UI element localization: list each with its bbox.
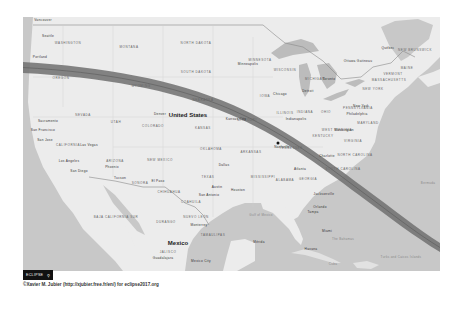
label-arkansas: ARKANSAS	[240, 150, 261, 154]
label-dallas: Dallas	[219, 163, 230, 167]
label-virginia: VIRGINIA	[344, 139, 362, 143]
label-mississippi: MISSISSIPPI	[251, 175, 275, 179]
label-quebec-city: Québec	[382, 46, 395, 50]
label-durango: DURANGO	[156, 220, 176, 224]
label-san-antonio: San Antonio	[199, 193, 220, 197]
label-tucson: Tucson	[114, 176, 126, 180]
label-sonora: SONORA	[132, 181, 149, 185]
label-mexico: Mexico	[168, 240, 188, 246]
label-san-diego: San Diego	[70, 169, 88, 173]
search-icon: ⚲	[47, 273, 50, 278]
label-massachusetts: MASSACHUSETTS	[372, 78, 406, 82]
label-new-york: NEW YORK	[362, 87, 383, 91]
label-vermont: VERMONT	[383, 72, 402, 76]
label-colorado: COLORADO	[142, 124, 164, 128]
label-new-brunswick: NEW BRUNSWICK	[398, 48, 432, 52]
label-jacksonville: Jacksonville	[314, 192, 335, 196]
label-san-jose: San Jose	[37, 138, 53, 142]
label-ottawa: Ottawa Gatineau	[344, 59, 372, 63]
label-austin: Austin	[212, 185, 223, 189]
label-bahamas: The Bahamas	[332, 237, 354, 241]
label-washington: WASHINGTON	[55, 41, 82, 45]
label-new-york-city: New York	[353, 104, 369, 108]
label-phoenix: Phoenix	[105, 165, 119, 169]
label-tamaulipas: TAMAULIPAS	[201, 233, 226, 237]
label-seattle: Seattle	[42, 34, 54, 38]
label-wyoming: WYOMING	[131, 84, 150, 88]
label-mexico-city: Mexico City	[191, 259, 211, 263]
label-jalisco: JALISCO	[160, 250, 177, 254]
eclipse-map[interactable]: United States Mexico WASHINGTON OREGON M…	[23, 17, 440, 271]
label-oregon: OREGON	[53, 76, 70, 80]
nashville-marker[interactable]	[277, 142, 280, 145]
label-atlanta: Atlanta	[294, 167, 306, 171]
label-montana: MONTANA	[120, 45, 139, 49]
label-alabama: ALABAMA	[276, 178, 294, 182]
label-maine: MAINE	[401, 66, 414, 70]
label-las-vegas: Las Vegas	[80, 143, 98, 147]
label-turks-caicos: Turks and Caicos Islands	[381, 255, 422, 259]
label-ohio: OHIO	[321, 110, 331, 114]
label-nashville: Nashville	[274, 145, 290, 149]
label-houston: Houston	[231, 188, 245, 192]
label-wisconsin: WISCONSIN	[274, 68, 297, 72]
label-merida: Mérida	[253, 240, 265, 244]
map-credit: ©Xavier M. Jubier (http://xjubier.free.f…	[23, 282, 159, 287]
label-vancouver: Vancouver	[34, 18, 52, 22]
badge-label: ECLIPSE	[26, 273, 43, 277]
label-south-carolina: SOUTH CAROLINA	[325, 167, 360, 171]
label-arizona: ARIZONA	[106, 159, 124, 163]
label-kansas: KANSAS	[195, 126, 211, 130]
label-illinois: ILLINOIS	[276, 111, 293, 115]
label-bermuda: Bermuda	[421, 181, 435, 185]
label-san-francisco: San Francisco	[31, 128, 55, 132]
label-south-dakota: SOUTH DAKOTA	[181, 70, 212, 74]
label-texas: TEXAS	[202, 175, 215, 179]
label-portland: Portland	[33, 55, 47, 59]
label-gulf-of-mexico: Gulf of Mexico	[249, 213, 272, 217]
label-denver: Denver	[154, 112, 166, 116]
label-nebraska: NEBRASKA	[192, 98, 213, 102]
label-sacramento: Sacramento	[38, 119, 58, 123]
label-united-states: United States	[169, 112, 207, 118]
label-utah: UTAH	[111, 120, 121, 124]
label-charlotte: Charlotte	[319, 154, 335, 158]
label-philadelphia: Philadelphia	[347, 112, 368, 116]
label-miami: Miami	[322, 229, 332, 233]
label-coahuila: COAHUILA	[181, 200, 201, 204]
label-chicago: Chicago	[273, 92, 287, 96]
label-washington-dc: Washington	[334, 128, 354, 132]
label-oklahoma: OKLAHOMA	[200, 147, 222, 151]
label-los-angeles: Los Angeles	[59, 159, 80, 163]
label-havana: Havana	[305, 247, 318, 251]
label-detroit: Detroit	[302, 89, 314, 93]
label-el-paso: El Paso	[151, 179, 164, 183]
label-minneapolis: Minneapolis	[238, 62, 258, 66]
label-nuevo-leon: NUEVO LEÓN	[183, 215, 209, 219]
label-cuba: Cuba	[329, 262, 337, 266]
label-indianapolis: Indianapolis	[286, 117, 307, 121]
label-north-dakota: NORTH DAKOTA	[181, 41, 212, 45]
label-california: CALIFORNIA	[56, 143, 80, 147]
label-baja-california-sur: BAJA CALIFORNIA SUR	[94, 215, 139, 219]
label-north-carolina: NORTH CAROLINA	[337, 153, 372, 157]
label-orlando: Orlando	[313, 205, 326, 209]
label-iowa: IOWA	[260, 94, 270, 98]
label-nevada: NEVADA	[75, 113, 91, 117]
label-kansas-city: Kansas City	[226, 117, 246, 121]
label-kentucky: KENTUCKY	[312, 134, 333, 138]
label-maryland: MARYLAND	[357, 121, 378, 125]
label-tampa: Tampa	[307, 210, 318, 214]
label-guadalajara: Guadalajara	[153, 256, 174, 260]
label-toronto: Toronto	[323, 77, 336, 81]
label-chihuahua: CHIHUAHUA	[157, 190, 180, 194]
label-new-mexico: NEW MEXICO	[147, 158, 173, 162]
eclipse-search-badge[interactable]: ECLIPSE ⚲	[23, 270, 53, 280]
label-monterrey: Monterrey	[190, 223, 207, 227]
label-indiana: INDIANA	[297, 110, 313, 114]
label-georgia: GEORGIA	[299, 177, 317, 181]
